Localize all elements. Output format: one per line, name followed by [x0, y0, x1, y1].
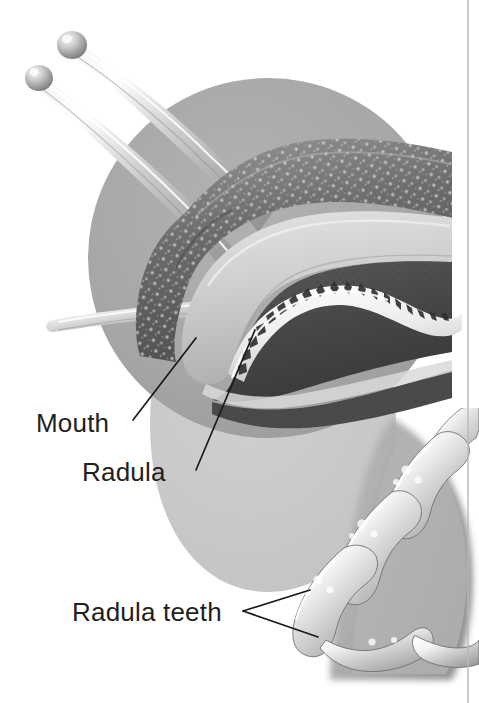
label-mouth: Mouth — [36, 408, 109, 438]
snail-radula-figure: Mouth Radula Radula teeth — [0, 0, 479, 703]
label-radula-teeth: Radula teeth — [72, 597, 222, 627]
label-radula: Radula — [82, 457, 166, 487]
